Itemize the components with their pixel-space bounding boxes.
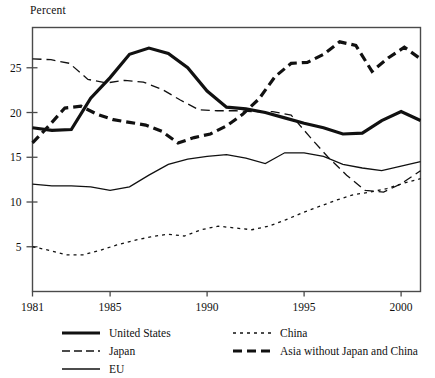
legend-swatch-thick-dashed bbox=[233, 345, 273, 357]
y-tick-label: 15 bbox=[10, 151, 22, 163]
legend-label-asia-without-japan-and-china: Asia without Japan and China bbox=[280, 345, 418, 357]
y-tick-label: 20 bbox=[10, 107, 22, 119]
legend-swatch-thin-solid bbox=[62, 363, 102, 375]
legend-swatch-thick-solid bbox=[62, 327, 102, 339]
y-tick-label: 25 bbox=[10, 62, 22, 74]
chart-legend: United States Japan EU China bbox=[0, 324, 435, 378]
legend-label-eu: EU bbox=[109, 363, 124, 375]
legend-item-eu: EU bbox=[62, 360, 171, 377]
x-axis-ticks: 19811985199019952000 bbox=[21, 292, 413, 313]
legend-item-japan: Japan bbox=[62, 342, 171, 359]
legend-swatch-thin-dashed bbox=[62, 345, 102, 357]
legend-label-china: China bbox=[280, 327, 307, 339]
plot-frame bbox=[33, 28, 421, 292]
line-chart-plot: 19811985199019952000 510152025 bbox=[0, 0, 435, 324]
legend-item-asia-without-japan-and-china: Asia without Japan and China bbox=[233, 342, 418, 359]
x-tick-label: 2000 bbox=[390, 301, 413, 313]
chart-figure: Percent 19811985199019952000 510152025 U… bbox=[0, 0, 435, 378]
legend-column-left: United States Japan EU bbox=[62, 324, 171, 378]
y-tick-label: 10 bbox=[10, 196, 22, 208]
x-tick-label: 1981 bbox=[21, 301, 44, 313]
legend-item-china: China bbox=[233, 324, 418, 341]
legend-label-japan: Japan bbox=[109, 345, 135, 357]
legend-item-united-states: United States bbox=[62, 324, 171, 341]
legend-swatch-dotted bbox=[233, 327, 273, 339]
legend-column-right: China Asia without Japan and China bbox=[233, 324, 418, 360]
x-tick-label: 1995 bbox=[293, 301, 316, 313]
legend-label-united-states: United States bbox=[109, 327, 171, 339]
x-tick-label: 1990 bbox=[196, 301, 219, 313]
x-tick-label: 1985 bbox=[99, 301, 122, 313]
y-tick-label: 5 bbox=[16, 241, 22, 253]
